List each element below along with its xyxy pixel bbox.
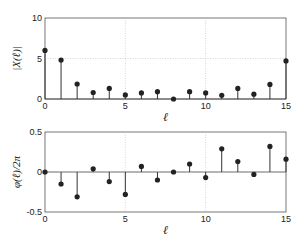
stem-marker (42, 48, 47, 53)
stem-marker (42, 169, 47, 174)
stem-marker (171, 96, 176, 101)
x-tick-label: 5 (123, 101, 128, 111)
x-tick-label: 0 (42, 214, 47, 224)
y-axis-label: |X(ℓ)| (10, 46, 23, 71)
stem-marker (91, 166, 96, 171)
stem-marker (58, 181, 63, 186)
stem-marker (155, 89, 160, 94)
stem-marker (171, 169, 176, 174)
stem-marker (267, 144, 272, 149)
stem-marker (203, 175, 208, 180)
y-tick-label: 5 (37, 54, 42, 64)
magnitude-plot: 0510150510ℓ|X(ℓ)| (10, 13, 291, 124)
stem-marker (75, 81, 80, 86)
stem-marker (235, 86, 240, 91)
stem-marker (283, 157, 288, 162)
stem-marker (91, 90, 96, 95)
x-tick-label: 15 (281, 101, 291, 111)
stem-marker (203, 90, 208, 95)
x-tick-label: 10 (201, 214, 211, 224)
stem-marker (58, 58, 63, 63)
stem-marker (107, 179, 112, 184)
phase-plot: 051015-0.500.5ℓφ(ℓ)/2π (10, 127, 291, 237)
y-tick-label: -0.5 (26, 207, 42, 217)
x-tick-label: 15 (281, 214, 291, 224)
x-tick-label: 0 (42, 101, 47, 111)
stem-marker (75, 194, 80, 199)
stem-marker (219, 146, 224, 151)
x-tick-label: 10 (201, 101, 211, 111)
stem-marker (123, 92, 128, 97)
stem-plots: 0510150510ℓ|X(ℓ)|051015-0.500.5ℓφ(ℓ)/2π (0, 0, 304, 239)
stem-marker (123, 192, 128, 197)
stem-marker (139, 164, 144, 169)
stem-marker (187, 161, 192, 166)
y-axis-label: φ(ℓ)/2π (10, 155, 23, 188)
stem-marker (219, 93, 224, 98)
stem-marker (251, 172, 256, 177)
stem-marker (251, 92, 256, 97)
x-axis-label: ℓ (163, 223, 168, 237)
x-axis-label: ℓ (163, 110, 168, 124)
y-tick-label: 0.5 (29, 127, 42, 137)
y-tick-label: 0 (37, 167, 42, 177)
stem-marker (283, 58, 288, 63)
stem-marker (139, 90, 144, 95)
x-tick-label: 5 (123, 214, 128, 224)
stem-marker (107, 86, 112, 91)
y-tick-label: 0 (37, 94, 42, 104)
stem-marker (267, 82, 272, 87)
stem-marker (187, 89, 192, 94)
stem-marker (235, 159, 240, 164)
y-tick-label: 10 (32, 13, 42, 23)
stem-marker (155, 177, 160, 182)
